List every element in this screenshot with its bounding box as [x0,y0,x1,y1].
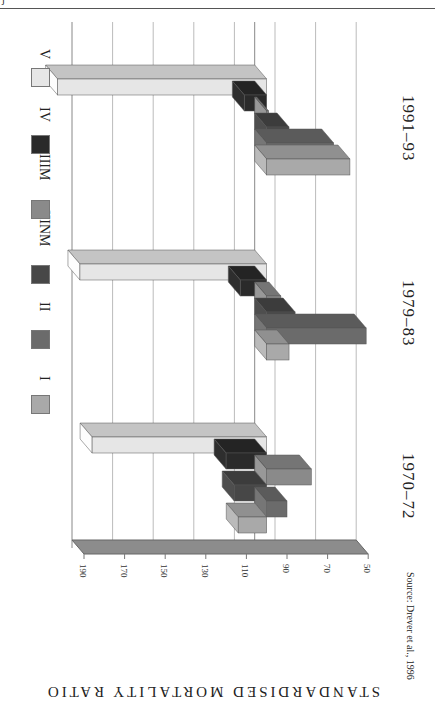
tick-label: 130 [200,564,210,578]
tick-label: 110 [240,564,250,577]
legend-swatch-IIINM [31,265,50,284]
legend-label-IV: IV [36,107,52,122]
legend-label-V: V [36,49,52,59]
legend-label-II: II [36,302,52,311]
tick-label: 70 [322,564,332,573]
axis-title: STANDARDISED MORTALITY RATIO [45,683,380,700]
legend-label-IIIM: IIIM [36,154,52,180]
tick-label: 90 [281,564,291,573]
tick-label: 50 [362,564,372,573]
bar-IIIM-1970–72 [255,455,312,485]
axis-floor [72,540,368,554]
legend-swatch-IIIM [31,200,50,219]
tick-label: 170 [119,564,129,578]
tick-label: 150 [159,564,169,578]
tick-label: 190 [78,564,88,578]
legend-swatch-IV [31,135,50,154]
legend-swatch-I [31,395,50,414]
source-note: Source: Drever et al., 1996 [405,572,416,680]
category-label: 1970–72 [398,453,418,520]
chart [0,0,435,718]
legend-swatch-II [31,330,50,349]
legend-label-I: I [36,376,52,381]
bar-I-1991–93 [255,145,350,175]
category-label: 1991–93 [398,95,418,162]
legend-swatch-V [31,68,50,87]
category-label: 1979–83 [398,280,418,347]
